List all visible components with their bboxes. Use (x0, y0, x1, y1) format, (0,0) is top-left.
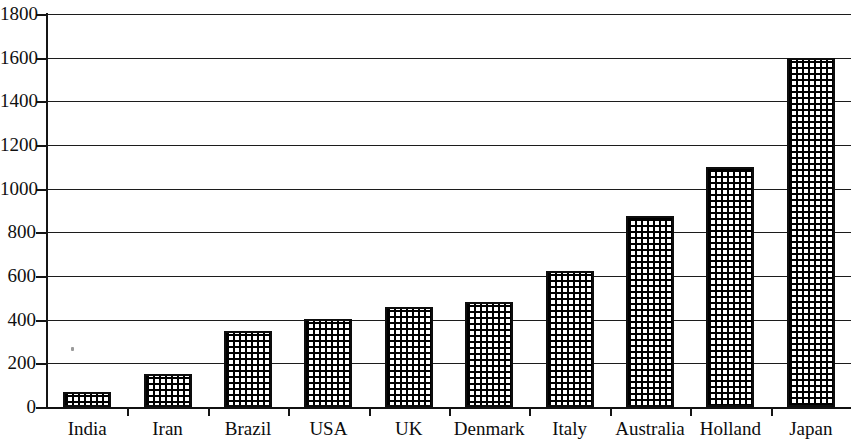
y-axis-tick (36, 363, 47, 365)
y-axis-tick-label: 600 (0, 266, 36, 285)
y-axis-tick-label: 1400 (0, 91, 36, 110)
y-axis-tick (36, 232, 47, 234)
x-axis-tick-label: India (47, 418, 127, 440)
y-axis-tick-label: 400 (0, 310, 36, 329)
x-axis-tick-label: Brazil (208, 418, 288, 440)
y-axis-tick (36, 320, 47, 322)
gridline (47, 58, 851, 59)
y-axis-tick (36, 276, 47, 278)
y-axis-tick (36, 101, 47, 103)
x-axis-tick-label: Holland (690, 418, 770, 440)
y-axis-tick (36, 145, 47, 147)
x-axis-tick (208, 407, 210, 416)
bar-uk (385, 307, 433, 407)
bar-denmark (465, 302, 513, 407)
y-axis-tick-label: 1200 (0, 135, 36, 154)
x-axis-tick (771, 407, 773, 416)
bar-italy (546, 271, 594, 407)
x-axis-tick (369, 407, 371, 416)
x-axis-tick-label: Italy (529, 418, 609, 440)
y-axis-tick-label: 200 (0, 353, 36, 372)
x-axis-tick (610, 407, 612, 416)
y-axis-tick-label: 1000 (0, 179, 36, 198)
x-axis-tick (449, 407, 451, 416)
bar-holland (706, 167, 754, 407)
x-axis-tick-label: UK (369, 418, 449, 440)
x-axis-tick (127, 407, 129, 416)
y-axis-tick-label: 1600 (0, 48, 36, 67)
bar-brazil (224, 331, 272, 407)
bar-iran (144, 374, 192, 407)
bar-australia (626, 216, 674, 407)
bar-chart: 020040060080010001200140016001800 IndiaI… (0, 0, 851, 446)
y-axis-tick (36, 58, 47, 60)
x-axis-tick-label: Iran (127, 418, 207, 440)
gridline (47, 145, 851, 146)
x-axis-tick (690, 407, 692, 416)
x-axis-tick (288, 407, 290, 416)
y-axis-tick-label: 0 (0, 397, 36, 416)
x-axis-tick (529, 407, 531, 416)
plot-area (47, 14, 851, 407)
bar-usa (304, 319, 352, 407)
scan-artifact-dot (71, 347, 74, 351)
x-axis-tick-label: Denmark (449, 418, 529, 440)
y-axis-tick (36, 14, 47, 16)
x-axis-tick-label: Australia (610, 418, 690, 440)
y-axis-tick-label: 800 (0, 222, 36, 241)
gridline (47, 101, 851, 102)
x-axis-tick-label: Japan (771, 418, 851, 440)
gridline (47, 14, 851, 15)
bar-india (63, 392, 111, 407)
bar-japan (787, 58, 835, 407)
x-axis-tick-label: USA (288, 418, 368, 440)
y-axis-tick (36, 189, 47, 191)
y-axis-tick-label: 1800 (0, 4, 36, 23)
y-axis-tick (36, 407, 47, 409)
